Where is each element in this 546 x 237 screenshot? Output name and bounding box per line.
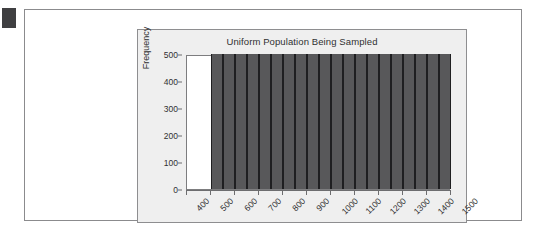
x-tick-label: 700 (266, 196, 283, 213)
bar (415, 54, 427, 189)
bar (343, 54, 355, 189)
y-tick-label: 500 (164, 50, 178, 60)
y-axis-ticks: 0100200300400500 (152, 55, 182, 190)
x-tick-mark (450, 190, 451, 195)
x-tick-label: 1500 (460, 196, 480, 216)
page-corner-marker (2, 8, 16, 28)
y-tick-label: 100 (164, 158, 178, 168)
bar (331, 54, 343, 189)
x-tick-label: 1000 (340, 196, 360, 216)
x-tick-label: 900 (314, 196, 331, 213)
chart-title: Uniform Population Being Sampled (138, 36, 466, 47)
x-tick-mark (378, 190, 379, 195)
bar (235, 54, 247, 189)
bar (283, 54, 295, 189)
x-tick-mark (210, 190, 211, 195)
bar (427, 54, 439, 189)
x-axis-line (186, 190, 450, 191)
bar (259, 54, 271, 189)
bar (403, 54, 415, 189)
bar (223, 54, 235, 189)
bar (367, 54, 379, 189)
x-axis-ticks: 4005006007008009001000110012001300140015… (186, 196, 450, 230)
x-tick-mark (282, 190, 283, 195)
bar-series (187, 56, 449, 189)
x-tick-mark (402, 190, 403, 195)
x-tick-label: 1400 (436, 196, 456, 216)
x-tick-mark (234, 190, 235, 195)
x-tick-label: 1300 (412, 196, 432, 216)
bar (295, 54, 307, 189)
y-tick-mark (178, 163, 182, 164)
y-tick-mark (178, 82, 182, 83)
x-tick-label: 1100 (363, 196, 383, 216)
figure-outer-frame: Uniform Population Being Sampled Frequen… (24, 9, 522, 221)
x-tick-label: 500 (218, 196, 235, 213)
chart-panel: Uniform Population Being Sampled Frequen… (137, 29, 467, 223)
y-tick-label: 200 (164, 131, 178, 141)
x-tick-label: 1200 (388, 196, 408, 216)
bar (307, 54, 319, 189)
y-tick-mark (178, 136, 182, 137)
y-tick-label: 400 (164, 77, 178, 87)
bar (379, 54, 391, 189)
y-tick-label: 300 (164, 104, 178, 114)
x-tick-mark (426, 190, 427, 195)
y-tick-mark (178, 190, 182, 191)
plot-area (186, 55, 450, 190)
y-tick-mark (178, 109, 182, 110)
x-tick-mark (354, 190, 355, 195)
x-tick-label: 400 (194, 196, 211, 213)
bar (211, 54, 223, 189)
x-tick-label: 800 (290, 196, 307, 213)
x-tick-mark (306, 190, 307, 195)
y-tick-mark (178, 55, 182, 56)
x-tick-mark (186, 190, 187, 195)
x-tick-mark (330, 190, 331, 195)
bar (271, 54, 283, 189)
bar (247, 54, 259, 189)
bar (391, 54, 403, 189)
x-tick-mark (258, 190, 259, 195)
bar (319, 54, 331, 189)
bar (439, 54, 451, 189)
x-tick-label: 600 (242, 196, 259, 213)
y-axis-title: Frequency (141, 8, 151, 88)
bar (355, 54, 367, 189)
